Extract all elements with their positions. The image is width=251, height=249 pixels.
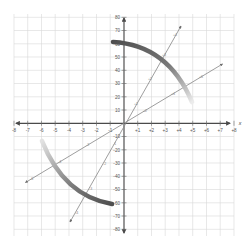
x-tick-label: +2 [149, 128, 155, 133]
x-tick-label: +5 [190, 128, 196, 133]
y-tick-label: 40 [115, 68, 121, 73]
x-tick-label: -4 [67, 128, 72, 133]
axes [16, 18, 230, 233]
series-lower-arc [42, 141, 112, 204]
line-point-label: +1 [134, 102, 138, 106]
y-tick-label: -30 [113, 161, 120, 166]
line-point-label: -3 [89, 187, 92, 191]
line-point-label: +2 [143, 109, 147, 113]
x-tick-label: +7 [218, 128, 224, 133]
y-tick-label: 70 [115, 28, 121, 33]
x-tick-label: -6 [39, 128, 44, 133]
y-tick-label: 10 [115, 108, 121, 113]
x-tick-label: +8 [231, 128, 237, 133]
y-tick-label: -60 [113, 201, 120, 206]
graph-canvas: -8 -7 -6 -5 -4 -3 -2 -1 +1 +2 +3 +4 +5 +… [0, 0, 251, 249]
y-tick-label: -20 [113, 148, 120, 153]
x-tick-label: +6 [204, 128, 210, 133]
x-axis-label: x [238, 120, 242, 126]
line-point-label: -4 [58, 160, 61, 164]
line-point-label: +2 [148, 77, 152, 81]
y-tick-label: -50 [113, 187, 120, 192]
y-tick-label: 30 [115, 81, 121, 86]
x-tick-label: -3 [81, 128, 86, 133]
x-tick-label: +4 [176, 128, 182, 133]
line-point-label: -1 [113, 142, 116, 146]
line-point-label: +3 [162, 53, 166, 57]
y-tick-label: 80 [115, 15, 121, 20]
line-point-label: -2 [86, 143, 89, 147]
y-tick-label: -40 [113, 174, 120, 179]
x-tick-label: -5 [53, 128, 58, 133]
y-tick-label: 50 [115, 55, 121, 60]
x-tick-label: +3 [163, 128, 169, 133]
series-steep-line: -4 -3 -2 -1 +1 +2 +3 +4 [70, 26, 181, 222]
line-point-label: +4 [173, 33, 177, 37]
x-tick-label: -2 [94, 128, 99, 133]
x-tick-label: +1 [135, 128, 141, 133]
line-point-label: +4 [171, 92, 175, 96]
y-tick-label: -70 [113, 214, 120, 219]
y-tick-label: -80 [113, 227, 120, 232]
coordinate-graph: -8 -7 -6 -5 -4 -3 -2 -1 +1 +2 +3 +4 +5 +… [0, 0, 251, 249]
line-point-label: +6 [199, 75, 203, 79]
series-upper-arc [113, 42, 192, 102]
y-tick-label: 20 [115, 95, 121, 100]
x-tick-label: -8 [12, 128, 17, 133]
line-point-label: -4 [75, 211, 78, 215]
line-point-label: -2 [103, 162, 106, 166]
x-tick-label: -7 [26, 128, 31, 133]
line-point-label: -6 [30, 177, 33, 181]
